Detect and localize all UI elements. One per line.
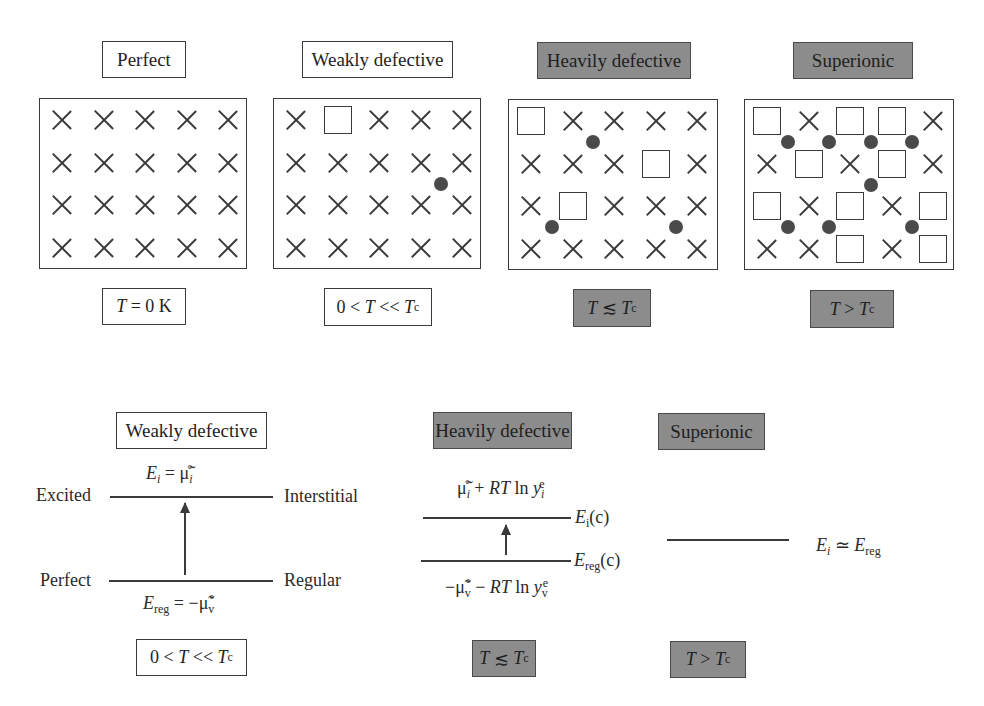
energy-condition-superionic: T > Tc bbox=[670, 641, 746, 678]
vacancy-square-icon bbox=[517, 107, 545, 135]
interstitial-ion-dot-icon bbox=[545, 220, 559, 234]
lattice-site-x-icon bbox=[757, 154, 777, 174]
lattice-site-x-icon bbox=[328, 195, 348, 215]
lattice-site-x-icon bbox=[369, 153, 389, 173]
vacancy-square-icon bbox=[836, 107, 864, 135]
excitation-arrow-icon bbox=[184, 503, 186, 575]
lattice-site-x-icon bbox=[840, 154, 860, 174]
title-weakly-defective: Weakly defective bbox=[302, 41, 453, 78]
lattice-site-x-icon bbox=[521, 154, 541, 174]
lattice-weakly-defective bbox=[273, 98, 481, 269]
vacancy-square-icon bbox=[642, 150, 670, 178]
cond-var: T bbox=[365, 297, 375, 318]
cond-op: > bbox=[840, 299, 859, 320]
lattice-site-x-icon bbox=[452, 110, 472, 130]
cond-rest: = 0 K bbox=[126, 296, 172, 317]
lattice-site-x-icon bbox=[177, 110, 197, 130]
lattice-site-x-icon bbox=[218, 238, 238, 258]
energy-condition-heavily: T ≲ Tc bbox=[472, 640, 536, 677]
lattice-site-x-icon bbox=[94, 153, 114, 173]
cond-var: T bbox=[587, 298, 597, 319]
vacancy-square-icon bbox=[878, 107, 906, 135]
lattice-site-x-icon bbox=[563, 111, 583, 131]
lattice-site-x-icon bbox=[369, 195, 389, 215]
label-interstitial: Interstitial bbox=[284, 486, 358, 507]
vacancy-square-icon bbox=[878, 150, 906, 178]
cond-op: << bbox=[375, 297, 404, 318]
lattice-site-x-icon bbox=[286, 238, 306, 258]
lattice-site-x-icon bbox=[452, 238, 472, 258]
energy-upper-weakly: Ei = μ̃i° bbox=[146, 462, 192, 487]
interstitial-ion-dot-icon bbox=[822, 220, 836, 234]
lattice-site-x-icon bbox=[521, 196, 541, 216]
cond-sub: c bbox=[869, 302, 874, 317]
vacancy-square-icon bbox=[836, 192, 864, 220]
level-interstitial-c bbox=[423, 517, 571, 519]
cond-var2: T bbox=[859, 299, 869, 320]
lattice-site-x-icon bbox=[604, 154, 624, 174]
condition-weakly-defective: 0 < T << Tc bbox=[324, 288, 432, 326]
cond-var: T bbox=[116, 296, 126, 317]
lattice-site-x-icon bbox=[411, 153, 431, 173]
lattice-site-x-icon bbox=[563, 154, 583, 174]
lattice-site-x-icon bbox=[286, 110, 306, 130]
lattice-site-x-icon bbox=[94, 238, 114, 258]
vacancy-square-icon bbox=[753, 107, 781, 135]
cond-pre: 0 < bbox=[337, 297, 365, 318]
cond-op: ≲ bbox=[597, 297, 621, 319]
interstitial-ion-dot-icon bbox=[781, 220, 795, 234]
interstitial-ion-dot-icon bbox=[864, 135, 878, 149]
condition-perfect: T = 0 K bbox=[102, 288, 186, 325]
lattice-site-x-icon bbox=[411, 195, 431, 215]
lattice-site-x-icon bbox=[177, 153, 197, 173]
lattice-site-x-icon bbox=[646, 196, 666, 216]
lattice-site-x-icon bbox=[452, 195, 472, 215]
lattice-site-x-icon bbox=[799, 239, 819, 259]
lattice-site-x-icon bbox=[604, 239, 624, 259]
title-perfect: Perfect bbox=[102, 41, 186, 78]
condition-heavily-defective: T ≲ Tc bbox=[573, 289, 651, 327]
interstitial-ion-dot-icon bbox=[669, 220, 683, 234]
excitation-arrow-icon-heavily bbox=[505, 525, 507, 555]
lattice-site-x-icon bbox=[286, 195, 306, 215]
lattice-site-x-icon bbox=[328, 238, 348, 258]
lattice-heavily-defective bbox=[508, 99, 718, 270]
lattice-site-x-icon bbox=[286, 153, 306, 173]
label-regular: Regular bbox=[284, 570, 341, 591]
cond-var2: T bbox=[404, 297, 414, 318]
lattice-site-x-icon bbox=[135, 238, 155, 258]
lattice-site-x-icon bbox=[369, 238, 389, 258]
lattice-site-x-icon bbox=[52, 238, 72, 258]
vacancy-square-icon bbox=[919, 192, 947, 220]
label-ei-c: Ei(c) bbox=[575, 507, 609, 531]
lattice-superionic bbox=[744, 99, 954, 270]
lattice-site-x-icon bbox=[135, 195, 155, 215]
vacancy-square-icon bbox=[836, 235, 864, 263]
vacancy-square-icon bbox=[559, 192, 587, 220]
interstitial-ion-dot-icon bbox=[434, 177, 448, 191]
lattice-site-x-icon bbox=[923, 154, 943, 174]
lattice-site-x-icon bbox=[604, 196, 624, 216]
lattice-site-x-icon bbox=[135, 110, 155, 130]
lattice-site-x-icon bbox=[687, 154, 707, 174]
energy-upper-expr-heavily: μ̃i° + RT ln yie bbox=[457, 477, 545, 502]
lattice-site-x-icon bbox=[94, 195, 114, 215]
vacancy-square-icon bbox=[324, 106, 352, 134]
lattice-site-x-icon bbox=[177, 195, 197, 215]
lattice-site-x-icon bbox=[218, 153, 238, 173]
interstitial-ion-dot-icon bbox=[905, 220, 919, 234]
interstitial-ion-dot-icon bbox=[905, 135, 919, 149]
lattice-site-x-icon bbox=[521, 239, 541, 259]
lattice-site-x-icon bbox=[411, 238, 431, 258]
lattice-site-x-icon bbox=[411, 110, 431, 130]
lattice-site-x-icon bbox=[135, 153, 155, 173]
interstitial-ion-dot-icon bbox=[781, 135, 795, 149]
lattice-site-x-icon bbox=[94, 110, 114, 130]
interstitial-ion-dot-icon bbox=[864, 178, 878, 192]
title-superionic: Superionic bbox=[793, 42, 913, 79]
lattice-site-x-icon bbox=[52, 195, 72, 215]
interstitial-ion-dot-icon bbox=[586, 135, 600, 149]
vacancy-square-icon bbox=[753, 192, 781, 220]
energy-lower-weakly: Ereg = −μ̃v° bbox=[143, 592, 214, 617]
lattice-perfect bbox=[39, 98, 247, 269]
